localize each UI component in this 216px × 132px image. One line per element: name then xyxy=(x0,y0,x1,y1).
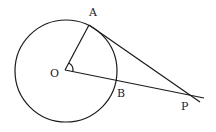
line-op xyxy=(65,70,204,98)
circle xyxy=(15,20,117,122)
label-o: O xyxy=(50,67,59,80)
tangent-circle-diagram: O A B P xyxy=(0,0,216,132)
radius-oa xyxy=(65,25,89,70)
label-b: B xyxy=(117,87,125,100)
label-p: P xyxy=(181,100,189,113)
label-a: A xyxy=(88,6,98,19)
tangent-ap xyxy=(89,25,200,102)
